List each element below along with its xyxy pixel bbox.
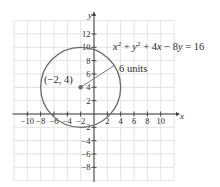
y-tick-label: 8: [86, 56, 90, 66]
x-tick-label: −10: [21, 116, 34, 126]
y-tick-label: 6: [86, 69, 90, 79]
radius-label: 6 units: [119, 63, 147, 74]
center-point-label: (−2, 4): [44, 74, 73, 86]
x-tick-label: −8: [36, 116, 45, 126]
center-point: [78, 85, 82, 89]
equation-label: x2 + y2 + 4x − 8y = 16: [112, 40, 204, 52]
x-tick-label: 6: [132, 116, 136, 126]
x-tick-label: 10: [156, 116, 165, 126]
y-tick-label: −6: [81, 149, 90, 159]
y-axis-label: y: [87, 10, 92, 20]
axes: [13, 11, 180, 182]
y-tick-label: 2: [86, 96, 90, 106]
chart-plot: −10−8−6−4−224681012108642−2−4−6−8 x2 + y…: [0, 0, 220, 187]
y-tick-label: −4: [81, 136, 91, 146]
y-axis-arrow-icon: [92, 11, 96, 16]
y-tick-label: −8: [81, 162, 90, 172]
y-tick-label: 12: [82, 29, 91, 39]
x-axis-label: x: [179, 111, 184, 121]
annotations: x2 + y2 + 4x − 8y = 16 6 units (−2, 4) x…: [44, 10, 204, 121]
x-tick-label: 4: [119, 116, 124, 126]
x-tick-label: 8: [145, 116, 149, 126]
